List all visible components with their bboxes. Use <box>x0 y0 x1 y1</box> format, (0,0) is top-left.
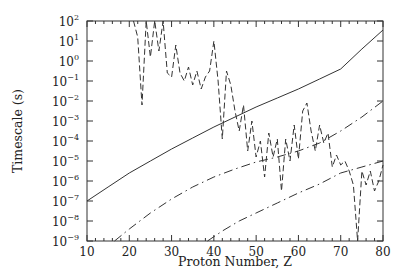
y-tick-label: 102 <box>59 13 79 29</box>
y-tick-label: 101 <box>59 33 79 49</box>
plot-lines <box>87 21 383 241</box>
x-axis-title: Proton Number, Z <box>178 254 292 269</box>
x-tick-label: 20 <box>122 245 137 259</box>
x-tick-label: 30 <box>164 245 179 259</box>
y-axis-ticks: 10210110010−110−210−310−410−510−610−710−… <box>52 13 383 249</box>
series-solid <box>87 30 383 201</box>
y-tick-label: 100 <box>59 53 79 69</box>
y-tick-label: 10−9 <box>52 233 79 249</box>
y-tick-label: 10−1 <box>52 73 79 89</box>
x-tick-label: 70 <box>333 245 348 259</box>
series-dashed <box>134 21 384 241</box>
series-dash-dot-upper <box>115 101 384 241</box>
y-tick-label: 10−6 <box>52 173 79 189</box>
x-tick-label: 10 <box>79 245 94 259</box>
x-tick-label: 80 <box>375 245 390 259</box>
y-tick-label: 10−3 <box>52 113 79 129</box>
series-dash-dot-lower <box>208 161 384 241</box>
y-tick-label: 10−8 <box>52 213 79 229</box>
timescale-chart: 1020304050607080 10210110010−110−210−310… <box>0 0 408 272</box>
x-tick-label: 60 <box>291 245 306 259</box>
y-tick-label: 10−7 <box>52 193 79 209</box>
y-tick-label: 10−2 <box>52 93 79 109</box>
plot-frame <box>87 21 383 241</box>
y-axis-title: Timescale (s) <box>10 89 25 173</box>
y-tick-label: 10−4 <box>52 133 79 149</box>
y-tick-label: 10−5 <box>52 153 79 169</box>
